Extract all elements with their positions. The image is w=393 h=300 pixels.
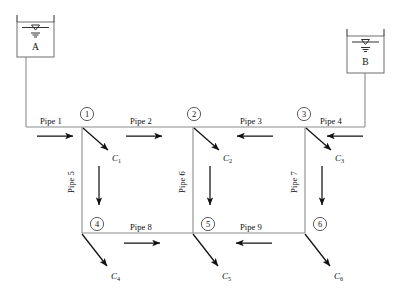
- demand-c5-label: C5: [222, 271, 231, 282]
- demand-c6-subscript: 6: [340, 275, 343, 282]
- demand-c2-subscript: 2: [229, 157, 232, 164]
- demand-c6-label: C6: [334, 271, 343, 282]
- reservoir-b-walls: [347, 29, 384, 36]
- reservoir-b-label: B: [362, 56, 368, 67]
- reservoir-a-label: A: [32, 41, 39, 52]
- demand-c4-arrow: [82, 234, 107, 266]
- node-5-label: 5: [206, 220, 210, 229]
- demand-c1-subscript: 1: [118, 157, 121, 164]
- pipe-1-label: Pipe 1: [40, 116, 62, 126]
- demand-c3-arrow: [306, 128, 331, 150]
- node-4[interactable]: 4: [90, 217, 103, 230]
- node-2[interactable]: 2: [187, 107, 200, 120]
- node-6-label: 6: [318, 220, 322, 229]
- demand-c6: C6: [305, 234, 343, 282]
- reservoir-a-walls: [17, 15, 54, 22]
- node-1[interactable]: 1: [80, 107, 93, 120]
- pipe-2-label: Pipe 2: [130, 116, 152, 126]
- pipe-6-label: Pipe 6: [177, 170, 187, 192]
- node-3[interactable]: 3: [297, 107, 310, 120]
- demand-c4-label: C4: [111, 271, 120, 282]
- pipe-9-label: Pipe 9: [240, 222, 262, 232]
- demand-c2-label: C2: [223, 153, 232, 164]
- node-2-label: 2: [192, 110, 196, 119]
- reservoir-b[interactable]: B: [347, 29, 384, 73]
- pipe-4-label: Pipe 4: [320, 116, 342, 126]
- pipe-5-label: Pipe 5: [66, 171, 76, 193]
- demand-c1: C1: [83, 128, 121, 164]
- demand-c5-arrow: [193, 234, 218, 266]
- demand-c3: C3: [306, 128, 344, 164]
- pipe-7-label: Pipe 7: [289, 170, 299, 192]
- node-6[interactable]: 6: [313, 217, 326, 230]
- pipe-3-label: Pipe 3: [240, 116, 262, 126]
- node-3-label: 3: [302, 110, 306, 119]
- demand-c5: C5: [193, 234, 231, 282]
- demand-c4: C4: [82, 234, 120, 282]
- demand-c1-label: C1: [112, 153, 121, 164]
- demand-c3-subscript: 3: [341, 157, 344, 164]
- pipe-network-diagram: A B Pipe 1 Pipe 2 Pipe 3 Pipe 4 Pipe 5 P…: [0, 0, 393, 300]
- pipe-8-label: Pipe 8: [130, 222, 152, 232]
- demand-c2-arrow: [194, 128, 219, 150]
- demand-c6-arrow: [305, 234, 330, 266]
- demand-c1-arrow: [83, 128, 108, 150]
- pipe-network-lines: [26, 57, 365, 233]
- node-1-label: 1: [85, 110, 89, 119]
- demand-c2: C2: [194, 128, 232, 164]
- demand-c4-subscript: 4: [117, 275, 120, 282]
- reservoir-a[interactable]: A: [17, 15, 54, 57]
- demand-c3-label: C3: [335, 153, 344, 164]
- node-5[interactable]: 5: [201, 217, 214, 230]
- network-canvas: A B Pipe 1 Pipe 2 Pipe 3 Pipe 4 Pipe 5 P…: [0, 0, 393, 300]
- demand-c5-subscript: 5: [228, 275, 231, 282]
